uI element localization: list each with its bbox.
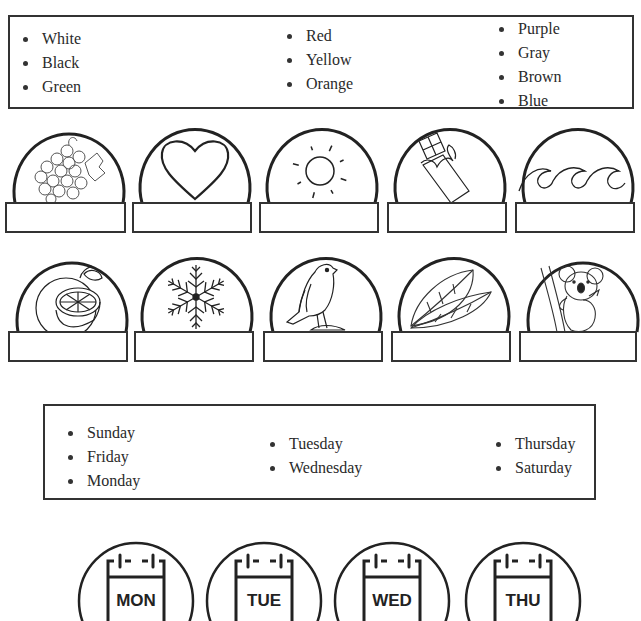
globe-grapes bbox=[5, 121, 127, 233]
globe-waves bbox=[515, 121, 637, 233]
color-word: Purple bbox=[496, 17, 562, 41]
globe-heart bbox=[132, 121, 254, 233]
grapes-icon bbox=[35, 138, 105, 204]
globe-sun bbox=[259, 121, 381, 233]
calendar-icon bbox=[108, 555, 164, 621]
color-word: Red bbox=[284, 24, 353, 48]
days-column-3: Thursday Saturday bbox=[493, 432, 575, 480]
chocolate-bar-icon bbox=[419, 133, 469, 203]
snowflake-icon bbox=[164, 265, 227, 329]
globe-chocolate bbox=[387, 121, 509, 233]
label-box[interactable] bbox=[515, 202, 635, 233]
bird-icon bbox=[287, 265, 345, 330]
day-word: Saturday bbox=[493, 456, 575, 480]
calendar-badge-tue: TUE bbox=[205, 541, 323, 621]
color-word: Brown bbox=[496, 65, 562, 89]
colors-word-box: White Black Green Red Yellow Orange Purp… bbox=[8, 15, 634, 109]
label-box[interactable] bbox=[5, 202, 126, 233]
label-box[interactable] bbox=[132, 202, 252, 233]
globe-koala bbox=[519, 250, 641, 362]
color-word: Black bbox=[20, 51, 81, 75]
day-abbreviation: THU bbox=[464, 591, 582, 611]
color-word: Yellow bbox=[284, 48, 353, 72]
colors-column-1: White Black Green bbox=[20, 27, 81, 99]
label-box[interactable] bbox=[8, 331, 128, 362]
globe-snowflake bbox=[134, 250, 256, 362]
calendar-icon bbox=[495, 555, 551, 621]
label-box[interactable] bbox=[263, 331, 383, 362]
label-box[interactable] bbox=[134, 331, 254, 362]
label-box[interactable] bbox=[387, 202, 507, 233]
label-box[interactable] bbox=[259, 202, 379, 233]
day-word: Thursday bbox=[493, 432, 575, 456]
days-word-box: Sunday Friday Monday Tuesday Wednesday T… bbox=[43, 404, 596, 500]
color-word: Blue bbox=[496, 89, 562, 113]
color-word: White bbox=[20, 27, 81, 51]
color-word: Gray bbox=[496, 41, 562, 65]
globe-bird bbox=[263, 250, 385, 362]
day-abbreviation: TUE bbox=[205, 591, 323, 611]
orange-fruit-icon bbox=[36, 266, 102, 338]
colors-column-2: Red Yellow Orange bbox=[284, 24, 353, 96]
day-word: Wednesday bbox=[267, 456, 362, 480]
sun-icon bbox=[293, 146, 346, 198]
color-word: Orange bbox=[284, 72, 353, 96]
day-abbreviation: MON bbox=[77, 591, 195, 611]
heart-icon bbox=[162, 141, 228, 199]
day-word: Sunday bbox=[65, 421, 140, 445]
label-box[interactable] bbox=[391, 331, 511, 362]
days-column-1: Sunday Friday Monday bbox=[65, 421, 140, 493]
day-word: Friday bbox=[65, 445, 140, 469]
colors-column-3: Purple Gray Brown Blue bbox=[496, 17, 562, 113]
day-abbreviation: WED bbox=[333, 591, 451, 611]
globe-orange bbox=[8, 250, 130, 362]
calendar-badge-wed: WED bbox=[333, 541, 451, 621]
globe-leaves bbox=[391, 250, 513, 362]
leaves-icon bbox=[411, 270, 491, 328]
calendar-badge-thu: THU bbox=[464, 541, 582, 621]
calendar-icon bbox=[236, 555, 292, 621]
calendar-badge-mon: MON bbox=[77, 541, 195, 621]
days-column-2: Tuesday Wednesday bbox=[267, 432, 362, 480]
calendar-icon bbox=[364, 555, 420, 621]
waves-icon bbox=[519, 168, 625, 191]
day-word: Monday bbox=[65, 469, 140, 493]
day-word: Tuesday bbox=[267, 432, 362, 456]
label-box[interactable] bbox=[519, 331, 637, 362]
color-word: Green bbox=[20, 75, 81, 99]
